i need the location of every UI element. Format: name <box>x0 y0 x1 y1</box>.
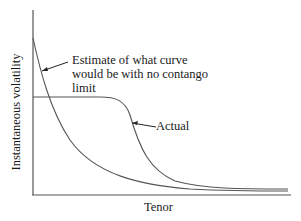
volatility-chart: Estimate of what curve would be with no … <box>0 0 301 221</box>
estimate-label-line2: would be with no contango <box>72 67 208 81</box>
estimate-label-line1: Estimate of what curve <box>72 53 188 67</box>
actual-curve <box>33 97 288 189</box>
estimate-arrowhead-icon <box>42 67 48 71</box>
estimate-label-line3: limit <box>72 81 96 95</box>
x-axis-label: Tenor <box>144 200 174 214</box>
y-axis-label: Instantaneous volatility <box>9 53 23 171</box>
actual-label: Actual <box>156 119 190 133</box>
